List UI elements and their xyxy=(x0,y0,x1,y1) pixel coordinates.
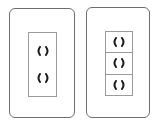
socket-icon xyxy=(112,58,126,68)
socket-icon xyxy=(112,80,126,90)
socket-icon xyxy=(112,37,126,47)
outlet-insert xyxy=(28,32,57,97)
outlet-cell xyxy=(106,32,132,53)
outlet-insert xyxy=(105,31,133,96)
double-outlet-plate xyxy=(9,8,75,118)
triple-outlet-plate xyxy=(86,7,150,118)
socket-icon xyxy=(36,73,50,83)
socket-icon xyxy=(36,46,50,56)
outlet-cell xyxy=(106,75,132,95)
outlet-cell xyxy=(106,53,132,74)
